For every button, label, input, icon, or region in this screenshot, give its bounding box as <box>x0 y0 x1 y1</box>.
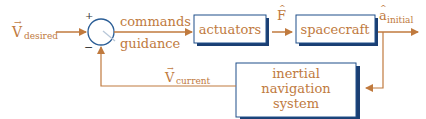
hat-icon: ^ <box>380 3 387 12</box>
a-subscript: initial <box>387 15 413 25</box>
actuators-label: actuators <box>199 22 261 37</box>
actuators-block: actuators <box>194 15 269 46</box>
ins-label-line1: inertial <box>272 66 320 81</box>
commands-label: commands <box>120 14 191 29</box>
spacecraft-label: spacecraft <box>301 22 371 37</box>
ins-label-line3: system <box>273 96 319 111</box>
spacecraft-block: spacecraft <box>296 15 378 46</box>
guidance-label: guidance <box>120 36 181 51</box>
vector-arrow-icon: → <box>167 64 174 73</box>
minus-sign: − <box>84 41 93 54</box>
ins-block: inertial navigation system <box>236 63 360 119</box>
block-diagram: V → desired + − commands guidance actuat… <box>0 0 426 119</box>
plus-sign: + <box>85 10 93 21</box>
hat-icon: ^ <box>279 3 286 12</box>
input-label-v-desired: V → desired <box>11 17 58 41</box>
v-subscript: desired <box>24 31 58 41</box>
accel-label: a ^ initial <box>379 3 413 25</box>
ins-label-line2: navigation <box>261 81 331 96</box>
v-current-subscript: current <box>176 76 211 86</box>
summing-junction: + − <box>84 10 115 54</box>
vector-arrow-icon: → <box>14 17 22 27</box>
feedback-label-v-current: V → current <box>164 64 211 86</box>
force-label: F ^ <box>277 3 286 23</box>
